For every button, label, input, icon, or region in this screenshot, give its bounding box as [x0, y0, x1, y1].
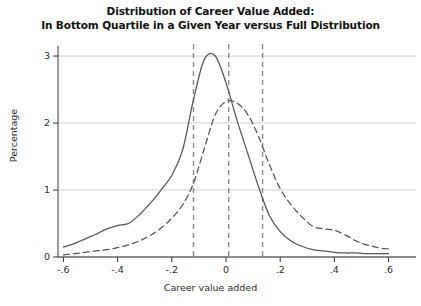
x-axis-label: Career value added: [0, 282, 421, 293]
y-tick-label-0: 0: [34, 251, 50, 262]
y-tick-label-3: 3: [34, 50, 50, 61]
series-line-full-distribution: [63, 101, 388, 255]
x-tick-label-4: .2: [265, 264, 295, 275]
x-tick-label-1: -.4: [103, 264, 133, 275]
y-tick-label-1: 1: [34, 184, 50, 195]
y-tick-label-2: 2: [34, 117, 50, 128]
x-tick-label-2: -.2: [157, 264, 187, 275]
x-tick-label-0: -.6: [48, 264, 78, 275]
y-axis-label: Percentage: [8, 96, 19, 176]
chart-canvas: Distribution of Career Value Added: In B…: [0, 0, 421, 306]
series-line-bottom-quartile: [63, 53, 388, 253]
x-tick-label-3: 0: [211, 264, 241, 275]
distribution-plot: [0, 0, 421, 306]
x-tick-label-6: .6: [374, 264, 404, 275]
x-tick-label-5: .4: [319, 264, 349, 275]
